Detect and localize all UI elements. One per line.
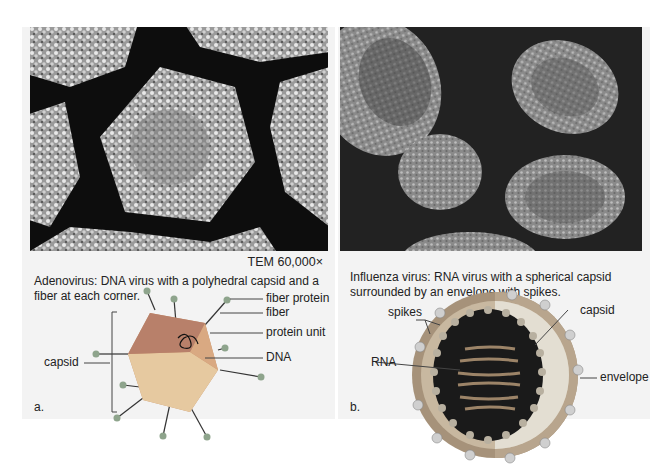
label-protein-unit: protein unit — [266, 325, 325, 339]
label-spikes: spikes — [388, 305, 422, 319]
label-envelope: envelope — [600, 370, 649, 384]
adenovirus-micrograph — [30, 27, 328, 251]
label-capsid-a: capsid — [44, 355, 79, 369]
label-fiber: fiber — [266, 305, 289, 319]
influenza-caption: Influenza virus: RNA virus with a spheri… — [350, 270, 642, 300]
influenza-micrograph — [340, 27, 642, 251]
magnification-label: TEM 60,000× — [248, 255, 323, 269]
label-rna: RNA — [371, 355, 396, 369]
label-dna: DNA — [266, 350, 291, 364]
label-capsid-b: capsid — [580, 303, 615, 317]
label-fiber-protein: fiber protein — [266, 291, 329, 305]
panel-letter-a: a. — [34, 400, 44, 414]
panel-letter-b: b. — [350, 400, 360, 414]
